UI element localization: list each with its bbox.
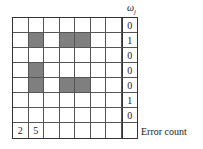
grid-cell [29, 93, 45, 108]
grid-cell [13, 48, 29, 63]
pattern-grid: 010001025 [12, 17, 138, 139]
grid-cell [91, 63, 107, 78]
grid-cell [106, 63, 122, 78]
grid-cell [44, 48, 60, 63]
error-count-cell [44, 123, 60, 138]
error-count-cell [91, 123, 107, 138]
grid-cell [60, 93, 76, 108]
grid-cell [75, 18, 91, 33]
grid-cell [91, 108, 107, 123]
grid-cell [44, 18, 60, 33]
error-count-cell [75, 123, 91, 138]
omega-value-cell: 1 [122, 33, 138, 48]
grid-cell [13, 63, 29, 78]
grid-cell [44, 78, 60, 93]
grid-cell [60, 48, 76, 63]
grid-cell [13, 18, 29, 33]
filled-cell [60, 78, 76, 93]
grid-cell [44, 108, 60, 123]
filled-cell [29, 33, 45, 48]
grid-cell [106, 48, 122, 63]
grid-cell [75, 93, 91, 108]
grid-cell [60, 108, 76, 123]
omega-value-cell: 1 [122, 93, 138, 108]
filled-cell [29, 63, 45, 78]
filled-cell [75, 78, 91, 93]
grid-cell [91, 18, 107, 33]
grid-cell [60, 18, 76, 33]
filled-cell [75, 33, 91, 48]
error-count-cell [106, 123, 122, 138]
grid-cell [44, 33, 60, 48]
omega-value-cell: 0 [122, 108, 138, 123]
omega-value-cell: 0 [122, 78, 138, 93]
grid-cell [91, 93, 107, 108]
filled-cell [60, 33, 76, 48]
grid-cell [13, 33, 29, 48]
grid-cell [44, 93, 60, 108]
grid-cell [29, 48, 45, 63]
grid-cell [75, 108, 91, 123]
grid-cell [91, 48, 107, 63]
grid-cell [13, 93, 29, 108]
grid-cell [29, 18, 45, 33]
grid-cell [91, 78, 107, 93]
grid-cell [13, 78, 29, 93]
grid-cell [91, 33, 107, 48]
omega-j-label: ωj [127, 2, 136, 16]
grid-cell [106, 78, 122, 93]
grid-cell [13, 108, 29, 123]
omega-value-cell: 0 [122, 48, 138, 63]
grid-cell [75, 48, 91, 63]
grid-cell [29, 108, 45, 123]
error-count-cell: 2 [13, 123, 29, 138]
grid-cell [122, 123, 138, 138]
grid-cell [106, 18, 122, 33]
grid-cell [106, 33, 122, 48]
filled-cell [29, 78, 45, 93]
error-count-cell [60, 123, 76, 138]
omega-value-cell: 0 [122, 18, 138, 33]
grid-cell [44, 63, 60, 78]
error-count-label: Error count [141, 126, 187, 137]
error-count-cell: 5 [29, 123, 45, 138]
omega-value-cell: 0 [122, 63, 138, 78]
grid-cell [75, 63, 91, 78]
grid-cell [60, 63, 76, 78]
grid-cell [106, 108, 122, 123]
grid-cell [106, 93, 122, 108]
